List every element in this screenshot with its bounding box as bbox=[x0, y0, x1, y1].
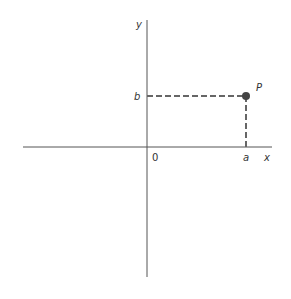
point-label: P bbox=[256, 82, 263, 93]
origin-label: 0 bbox=[152, 152, 158, 163]
x-axis-label: x bbox=[263, 152, 270, 163]
y-coord-label: b bbox=[134, 91, 140, 102]
y-axis-label: y bbox=[135, 19, 143, 30]
point-p bbox=[242, 92, 250, 100]
x-coord-label: a bbox=[243, 152, 249, 163]
coordinate-diagram: y x 0 a b P bbox=[0, 0, 291, 299]
